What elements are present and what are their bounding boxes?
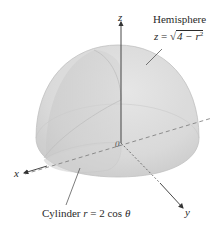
cylinder-title: Cylinder (42, 207, 81, 219)
x-axis (24, 166, 47, 173)
hemisphere-cylinder-diagram: z x y 0 Hemisphere z = √4 − r2 Cylinder … (0, 0, 224, 232)
y-axis (160, 183, 183, 208)
cylinder-eq-lhs: r (83, 207, 87, 219)
radicand-exponent: 2 (200, 30, 204, 38)
radicand-text: 4 − r (177, 30, 200, 42)
origin-label: 0 (115, 140, 120, 149)
hemisphere-eq-lhs: z (154, 30, 158, 42)
z-axis-label: z (118, 12, 122, 23)
cylinder-eq-theta: θ (125, 207, 130, 219)
hemisphere-eq-radicand: 4 − r2 (176, 30, 203, 42)
hemisphere-title: Hemisphere (153, 14, 206, 25)
cylinder-leader-line (66, 168, 80, 205)
hemisphere-equation: z = √4 − r2 (154, 30, 203, 42)
cylinder-eq-rhs: = 2 cos (90, 207, 122, 219)
cylinder-surface (44, 50, 121, 172)
cylinder-label: Cylinder r = 2 cos θ (42, 208, 130, 219)
hemisphere-eq-equals: = (161, 30, 167, 42)
y-axis-label: y (185, 207, 190, 218)
x-axis-label: x (14, 168, 19, 179)
